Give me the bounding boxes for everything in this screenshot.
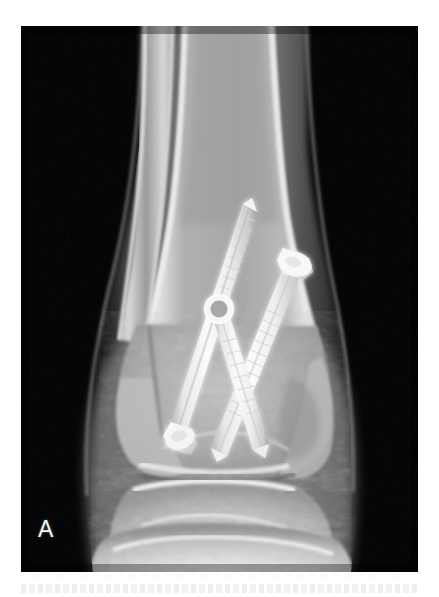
caption-band: [21, 584, 418, 593]
film-grain-overlay: [21, 26, 418, 572]
panel-label: A: [38, 518, 54, 541]
caption-band-upper: [21, 574, 418, 578]
xray-canvas: [21, 26, 418, 572]
figure-root: A: [0, 0, 439, 597]
xray-image: A: [21, 26, 418, 572]
